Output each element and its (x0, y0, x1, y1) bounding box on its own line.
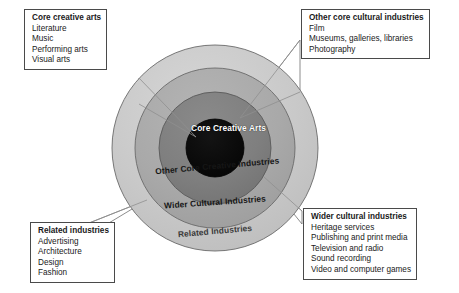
core-label-line-3: Arts (249, 123, 266, 133)
callout-other-core-cultural-industries: Other core cultural industries Film Muse… (301, 9, 430, 59)
callout-related-industries: Related industries Advertising Architect… (30, 222, 115, 283)
callout-item: Photography (309, 45, 424, 56)
callout-item: Film (309, 24, 424, 35)
callout-heading: Related industries (38, 226, 109, 237)
ring-label-core-creative-arts: Core Creative Arts (191, 123, 239, 134)
diagram-canvas: Core Creative Arts Other Core Creative I… (0, 0, 459, 293)
callout-item: Performing arts (32, 45, 101, 56)
callout-item: Fashion (38, 268, 109, 279)
callout-heading: Other core cultural industries (309, 13, 424, 24)
callout-item: Architecture (38, 247, 109, 258)
callout-heading: Core creative arts (32, 13, 101, 24)
wider-label-line-2: Industries (225, 193, 267, 206)
callout-item: Museums, galleries, libraries (309, 34, 424, 45)
core-label-line-1: Core (191, 123, 210, 133)
callout-heading: Wider cultural industries (311, 212, 411, 223)
callout-core-creative-arts: Core creative arts Literature Music Perf… (24, 9, 107, 70)
other-core-label-line-2: Industries (238, 155, 280, 169)
callout-item: Sound recording (311, 254, 411, 265)
callout-item: Visual arts (32, 55, 101, 66)
callout-item: Television and radio (311, 244, 411, 255)
wider-label-line-1: Wider Cultural (164, 196, 223, 210)
callout-item: Music (32, 34, 101, 45)
callout-item: Video and computer games (311, 265, 411, 276)
core-label-line-2: Creative (213, 123, 247, 133)
callout-item: Heritage services (311, 223, 411, 234)
callout-item: Advertising (38, 237, 109, 248)
callout-wider-cultural-industries: Wider cultural industries Heritage servi… (303, 208, 417, 280)
callout-item: Design (38, 258, 109, 269)
callout-item: Literature (32, 24, 101, 35)
callout-item: Publishing and print media (311, 233, 411, 244)
